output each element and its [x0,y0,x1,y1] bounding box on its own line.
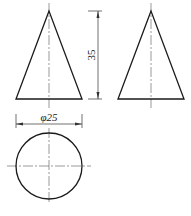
height-label: 35 [85,49,97,61]
side-view [118,3,184,108]
diameter-label: φ25 [40,111,58,123]
height-dimension: 35 [85,11,102,99]
cone-drawing: 35 φ25 [0,0,191,216]
arrow-right-icon [75,123,82,126]
diameter-dimension: φ25 [16,111,82,128]
top-view [7,128,91,202]
arrow-up-icon [97,11,100,18]
front-view [16,3,82,108]
arrow-down-icon [97,92,100,99]
arrow-left-icon [16,123,23,126]
